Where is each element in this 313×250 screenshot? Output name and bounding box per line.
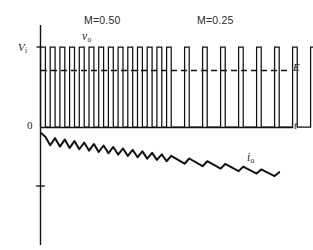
origin-label: 0 — [27, 120, 33, 131]
axis-label-vi-sub: i — [25, 46, 27, 55]
waveform-figure: Vi 0 t E M=0.50 M=0.25 vo io — [0, 0, 313, 250]
waveform-label-vo: vo — [82, 31, 91, 43]
waveform-label-vo-sub: o — [87, 35, 91, 44]
axis-label-vi-main: V — [18, 41, 25, 53]
waveform-label-io-sub: o — [250, 156, 254, 165]
annotation-modulation-left: M=0.50 — [84, 15, 121, 26]
waveform-canvas — [0, 0, 313, 250]
waveform-label-io: io — [247, 152, 254, 164]
annotation-modulation-right: M=0.25 — [197, 15, 234, 26]
level-label-e: E — [293, 62, 300, 73]
axis-label-vi: Vi — [18, 42, 27, 54]
axis-label-time: t — [294, 120, 297, 131]
